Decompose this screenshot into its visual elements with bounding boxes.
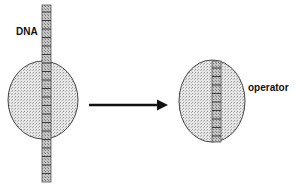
transition-arrow [89, 100, 168, 111]
diagram-canvas: DNA operator [0, 0, 298, 190]
dna-strand-long [42, 5, 51, 182]
arrow-head-icon [157, 100, 168, 111]
operator-label: operator [248, 82, 289, 93]
operator-segment [212, 61, 221, 142]
dna-label: DNA [16, 26, 38, 37]
